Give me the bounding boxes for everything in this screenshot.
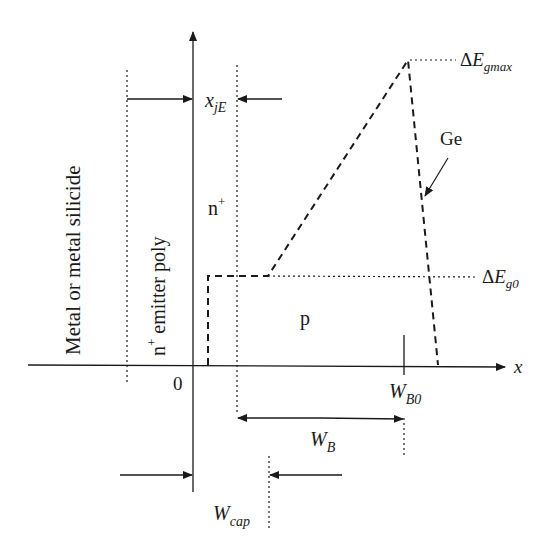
origin-label: 0 bbox=[173, 373, 183, 394]
xjE-label: xjE bbox=[204, 89, 227, 115]
dEg0-label: ΔEg0 bbox=[482, 266, 519, 291]
WB-label: WB bbox=[310, 428, 336, 455]
dEg0-level bbox=[268, 276, 478, 277]
WB0-label: WB0 bbox=[389, 380, 421, 407]
boundaries bbox=[127, 60, 478, 530]
WB-dimension bbox=[238, 418, 403, 419]
x-axis bbox=[28, 365, 505, 367]
poly-region-label: n+ emitter poly bbox=[144, 236, 170, 356]
ge-profile-diagram: x 0 xjE ΔEgmax ΔEg0 Ge n+ p Metal or met… bbox=[0, 0, 552, 550]
WB-arrow-right bbox=[320, 418, 403, 419]
dEgmax-label: ΔEgmax bbox=[460, 49, 512, 74]
Wcap-label: Wcap bbox=[213, 502, 250, 529]
axes: x 0 bbox=[28, 32, 523, 492]
ge-bandgap-profile bbox=[208, 60, 438, 365]
base-region-label: p bbox=[300, 307, 310, 330]
emitter-region-label: n+ bbox=[208, 194, 225, 219]
ge-label: Ge bbox=[440, 128, 462, 149]
x-axis-label: x bbox=[513, 356, 523, 377]
ge-pointer-arrow bbox=[425, 158, 448, 196]
metal-region-label: Metal or metal silicide bbox=[61, 165, 85, 355]
